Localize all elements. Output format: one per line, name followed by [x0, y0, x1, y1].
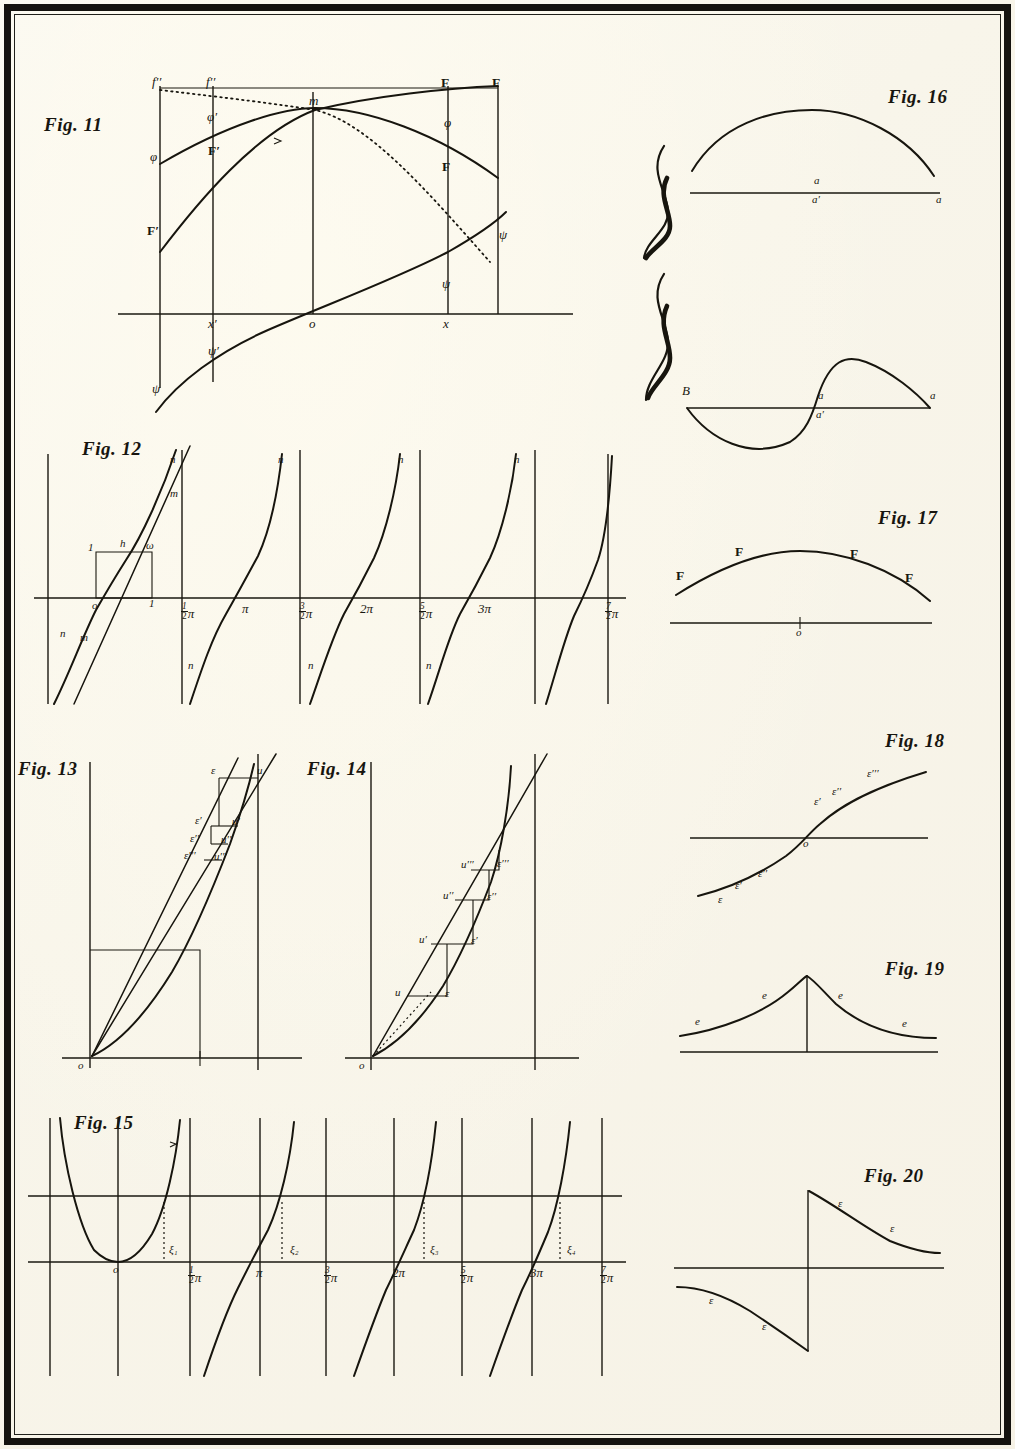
fig11-caption: Fig. 11	[44, 114, 102, 136]
fig18-sigmoid	[698, 772, 926, 896]
fig14-caption: Fig. 14	[307, 758, 366, 780]
fig11-label-psi-right-high: ψ	[499, 228, 507, 241]
fig20-upper-branch	[809, 1191, 940, 1253]
fig18-label-e2: ε′	[735, 880, 742, 891]
fig11-label-F-left: F′	[147, 224, 159, 238]
fig12-branch-4	[428, 454, 516, 704]
fig15-drawing	[24, 1104, 634, 1404]
fig11-label-psi-low-mid: ψ′	[208, 344, 219, 357]
fig13-unit-rect	[90, 950, 200, 1058]
fig12-label-n-upper-1: n	[170, 454, 176, 465]
fig17-label-F4: F	[905, 571, 913, 585]
fig12-branch-2	[190, 454, 282, 704]
fig12-label-n-lower-4: n	[426, 660, 432, 671]
fig17-drawing	[660, 505, 990, 645]
fig12-label-n-upper-4: n	[514, 454, 520, 465]
fig14-drawing	[303, 748, 593, 1083]
fig18-caption: Fig. 18	[885, 730, 944, 752]
fig15-label-xi2: ξ₂	[290, 1244, 299, 1255]
fig12-branch-5	[546, 456, 612, 704]
fig13-chord-2	[92, 754, 276, 1056]
fig14-step-2	[431, 900, 473, 944]
fig14-chord-1	[373, 754, 547, 1056]
fig15-label-xi4: ξ₄	[567, 1244, 576, 1255]
fig14-chord-dash	[373, 992, 431, 1056]
fig13-label-eps2: ε′′	[190, 833, 199, 844]
plate-canvas: Fig. 11 f′′ f′′ F F φ φ′	[0, 0, 1015, 1449]
fig17-label-F3: F	[850, 547, 858, 561]
fig15-tick-1: π	[256, 1266, 263, 1279]
fig12-tick-5: 3π	[478, 602, 491, 615]
fig12-drawing	[30, 432, 630, 708]
fig13-label-u3: u′′′	[214, 851, 227, 862]
fig16-label-upper-a-above: a	[814, 175, 820, 186]
fig19-label-e1: e	[695, 1016, 700, 1027]
fig12-tick-4: 52π	[419, 602, 432, 622]
fig15-caption: Fig. 15	[74, 1112, 133, 1134]
fig12-tick-6: 72π	[605, 602, 618, 622]
fig16-label-lower-a-below: a′	[816, 409, 824, 420]
fig11-label-axis-x-left: x′	[208, 317, 217, 330]
fig13-drawing	[14, 748, 304, 1083]
fig11-label-F-mid: F′	[208, 144, 220, 158]
fig19-drawing	[680, 930, 990, 1080]
fig12-label-unit-right: 1	[149, 598, 155, 609]
fig20-lower-branch	[677, 1287, 808, 1351]
fig18-label-e5: ε′′	[832, 786, 841, 797]
figure-fig17: Fig. 17 F F F F o	[660, 505, 990, 645]
fig12-label-m-upper: m	[170, 488, 178, 499]
fig16-label-lower-B: B	[682, 384, 690, 397]
fig16-label-upper-a-below: a′	[812, 194, 820, 205]
fig16-label-upper-right: a	[936, 194, 942, 205]
fig15-label-origin: o	[113, 1264, 119, 1275]
fig12-branch-1	[54, 450, 176, 704]
fig15-branch-0	[60, 1118, 180, 1262]
fig19-label-e3: e	[838, 990, 843, 1001]
fig20-label-e4: ε	[762, 1321, 766, 1332]
fig11-label-F-top-right: F	[441, 76, 449, 90]
fig19-label-e2: e	[762, 990, 767, 1001]
fig18-label-e1: ε	[718, 894, 722, 905]
fig13-curve	[92, 764, 254, 1056]
fig15-tick-0: 12π	[188, 1266, 201, 1286]
fig17-caption: Fig. 17	[878, 507, 937, 529]
fig20-label-e3: ε	[709, 1295, 713, 1306]
fig11-label-F-right: F	[442, 160, 450, 174]
figure-fig12: Fig. 12 n n n n	[30, 432, 630, 708]
fig11-label-psi-low-left: ψ	[152, 382, 160, 395]
fig17-arch	[676, 551, 930, 601]
fig13-label-u1: u′	[232, 816, 240, 827]
fig11-label-psi-right-low: ψ	[442, 277, 450, 290]
fig14-label-origin: o	[359, 1060, 365, 1071]
fig19-right-tail	[807, 976, 936, 1038]
fig17-label-F1: F	[676, 569, 684, 583]
fig12-label-origin: o	[92, 600, 98, 611]
fig13-label-origin: o	[78, 1060, 84, 1071]
fig19-left-tail	[680, 976, 807, 1036]
fig12-label-n-lower-1: n	[60, 628, 66, 639]
fig13-label-u2: u′′	[221, 834, 231, 845]
figure-fig19: Fig. 19 e e e e	[680, 930, 990, 1080]
fig13-label-eps3: ε′′′	[184, 850, 196, 861]
fig11-label-phi-right: φ	[444, 116, 451, 129]
fig16-caption: Fig. 16	[888, 86, 947, 108]
fig12-label-n-lower-2: n	[188, 660, 194, 671]
fig16-drawing	[640, 78, 990, 438]
fig12-label-n-lower-3: n	[308, 660, 314, 671]
fig15-tick-5: 3π	[530, 1266, 543, 1279]
fig20-caption: Fig. 20	[864, 1165, 923, 1187]
fig15-label-xi1: ξ₁	[169, 1244, 178, 1255]
fig12-tick-1: π	[242, 602, 249, 615]
fig12-label-unit-left: 1	[88, 542, 94, 553]
fig19-caption: Fig. 19	[885, 958, 944, 980]
figure-fig14: Fig. 14 o u ε u′ ε′ u′′ ε′′ u′′′ ε′′′	[303, 748, 593, 1083]
fig20-label-e1: ε	[838, 1198, 842, 1209]
fig16-lower-scurve	[687, 359, 930, 449]
figure-fig13: Fig. 13 o ε u ε′ u′ ε′′ u′′ ε′′′	[14, 748, 304, 1083]
fig20-label-e2: ε	[890, 1223, 894, 1234]
fig12-label-h: h	[120, 538, 126, 549]
fig16-label-lower-a-above: a	[818, 390, 824, 401]
fig15-tick-6: 72π	[600, 1266, 613, 1286]
fig15-branch-3	[490, 1122, 570, 1376]
fig11-label-axis-x-right: x	[443, 317, 449, 330]
